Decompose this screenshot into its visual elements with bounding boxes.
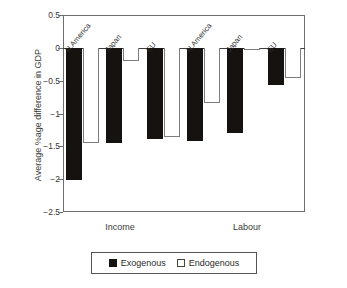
y-tick-label: −2 bbox=[20, 175, 60, 183]
y-tick-label: 0 bbox=[20, 44, 60, 52]
bar-exogenous-0 bbox=[66, 48, 82, 180]
legend-swatch-exogenous-icon bbox=[109, 259, 117, 267]
bar-endogenous-3 bbox=[204, 48, 220, 103]
bar-exogenous-5 bbox=[268, 48, 284, 85]
legend-label-endogenous: Endogenous bbox=[189, 258, 240, 268]
bar-endogenous-4 bbox=[244, 48, 260, 51]
legend-item-endogenous: Endogenous bbox=[177, 258, 240, 268]
bar-endogenous-5 bbox=[285, 48, 301, 78]
bar-endogenous-2 bbox=[164, 48, 180, 137]
legend-item-exogenous: Exogenous bbox=[109, 258, 166, 268]
y-tick-label: −1.5 bbox=[20, 142, 60, 150]
chart-legend: Exogenous Endogenous bbox=[91, 252, 257, 274]
bar-endogenous-1 bbox=[123, 48, 139, 61]
y-tick-mark bbox=[58, 212, 63, 213]
bar-endogenous-0 bbox=[83, 48, 99, 143]
bar-chart: Average %age difference in GDP 0.50−0.5−… bbox=[0, 0, 347, 288]
y-tick-label: 0.5 bbox=[20, 11, 60, 19]
legend-label-exogenous: Exogenous bbox=[121, 258, 166, 268]
bar-exogenous-3 bbox=[187, 48, 203, 141]
bar-exogenous-4 bbox=[227, 48, 243, 133]
y-tick-label: −1 bbox=[20, 110, 60, 118]
bar-exogenous-1 bbox=[106, 48, 122, 143]
group-label-labour: Labour bbox=[207, 222, 287, 232]
group-label-income: Income bbox=[80, 222, 160, 232]
y-tick-label: −2.5 bbox=[20, 208, 60, 216]
bar-exogenous-2 bbox=[147, 48, 163, 139]
legend-swatch-endogenous-icon bbox=[177, 259, 185, 267]
y-tick-label: −0.5 bbox=[20, 77, 60, 85]
